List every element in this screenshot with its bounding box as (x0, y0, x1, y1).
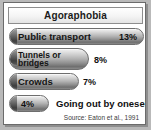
bar-value-crowds: 7% (83, 77, 96, 87)
bar-row-public-transport: Public transport 13% (4, 28, 145, 45)
bar-going-out-by-oneself[interactable]: 4% (9, 95, 49, 112)
bar-label-line2: bridges (18, 58, 49, 68)
bar-label-public-transport: Public transport (10, 32, 91, 41)
bar-row-going-out-by-oneself: 4% Going out by oneself (4, 95, 145, 112)
agoraphobia-chart-panel: Agoraphobia Public transport 13% Tunnels… (3, 2, 146, 125)
bar-value-tunnels-or-bridges: 8% (94, 55, 107, 65)
source-citation: Source: Eaton et al., 1991 (64, 114, 139, 121)
chart-title-plate: Agoraphobia (8, 7, 143, 24)
bar-crowds[interactable]: Crowds (9, 73, 79, 90)
bar-tunnels-or-bridges[interactable]: Tunnels or bridges (9, 48, 89, 70)
bar-row-crowds: Crowds 7% (4, 73, 145, 90)
bar-value-going-out-by-oneself: 4% (21, 99, 34, 109)
bar-label-crowds: Crowds (10, 77, 53, 86)
bar-label-going-out-by-oneself: Going out by oneself (56, 98, 146, 109)
bar-value-public-transport: 13% (119, 32, 137, 42)
bar-public-transport[interactable]: Public transport 13% (9, 28, 144, 45)
page-title: Agoraphobia (44, 10, 107, 21)
bar-label-tunnels-or-bridges: Tunnels or bridges (10, 51, 61, 67)
bar-row-tunnels-or-bridges: Tunnels or bridges 8% (4, 48, 145, 70)
